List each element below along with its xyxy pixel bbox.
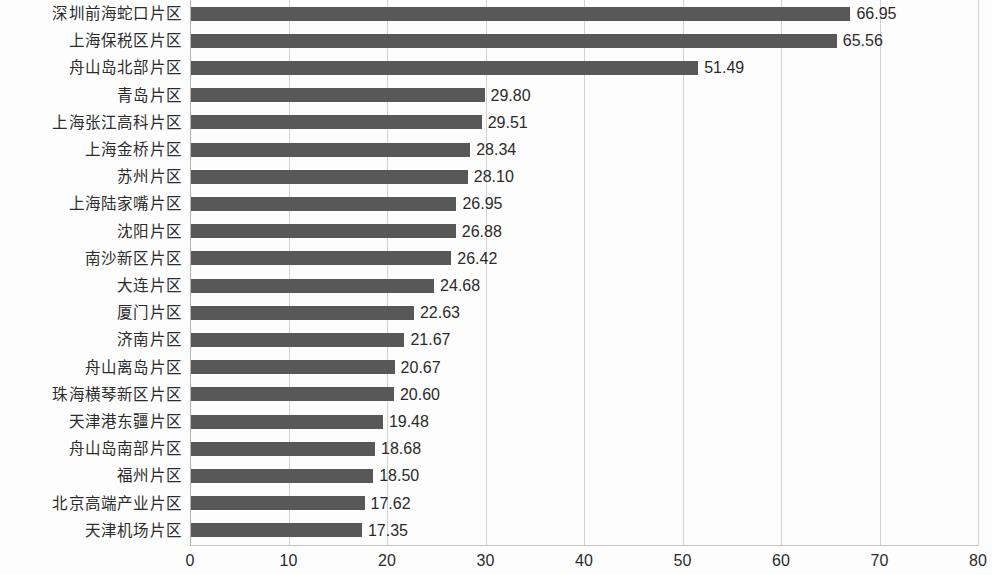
bar-value-label: 18.68 bbox=[381, 435, 421, 462]
bar[interactable] bbox=[191, 333, 404, 347]
bar-value-label: 28.10 bbox=[474, 163, 514, 190]
bar-row[interactable]: 天津港东疆片区19.48 bbox=[0, 408, 992, 435]
category-label: 舟山离岛片区 bbox=[0, 354, 182, 381]
category-label: 厦门片区 bbox=[0, 299, 182, 326]
bar-row[interactable]: 厦门片区22.63 bbox=[0, 299, 992, 326]
bar-value-label: 21.67 bbox=[410, 326, 450, 353]
x-axis-tick-label: 0 bbox=[186, 548, 195, 574]
bar[interactable] bbox=[191, 34, 837, 48]
category-label: 上海陆家嘴片区 bbox=[0, 190, 182, 217]
category-label: 青岛片区 bbox=[0, 82, 182, 109]
category-label: 上海张江高科片区 bbox=[0, 109, 182, 136]
bar-value-label: 19.48 bbox=[389, 408, 429, 435]
bar[interactable] bbox=[191, 197, 456, 211]
category-label: 舟山岛北部片区 bbox=[0, 54, 182, 81]
bar-row[interactable]: 珠海横琴新区片区20.60 bbox=[0, 381, 992, 408]
bar-value-label: 26.95 bbox=[462, 190, 502, 217]
bar-row[interactable]: 苏州片区28.10 bbox=[0, 163, 992, 190]
bar[interactable] bbox=[191, 523, 362, 537]
category-label: 深圳前海蛇口片区 bbox=[0, 0, 182, 27]
bar-value-label: 65.56 bbox=[843, 27, 883, 54]
bar[interactable] bbox=[191, 387, 394, 401]
bar-value-label: 17.62 bbox=[371, 490, 411, 517]
x-axis-tick-label: 40 bbox=[575, 548, 593, 574]
x-axis-baseline bbox=[190, 545, 979, 546]
x-axis-tick-label: 50 bbox=[674, 548, 692, 574]
bar-row[interactable]: 北京高端产业片区17.62 bbox=[0, 490, 992, 517]
bar[interactable] bbox=[191, 306, 414, 320]
bar[interactable] bbox=[191, 360, 395, 374]
bar-value-label: 18.50 bbox=[379, 462, 419, 489]
bar-row[interactable]: 南沙新区片区26.42 bbox=[0, 245, 992, 272]
x-axis-tick-label: 10 bbox=[280, 548, 298, 574]
bar-row[interactable]: 天津机场片区17.35 bbox=[0, 517, 992, 544]
category-label: 济南片区 bbox=[0, 326, 182, 353]
x-axis-tick-label: 20 bbox=[378, 548, 396, 574]
category-label: 大连片区 bbox=[0, 272, 182, 299]
category-label: 沈阳片区 bbox=[0, 218, 182, 245]
bar-value-label: 26.42 bbox=[457, 245, 497, 272]
bar-value-label: 51.49 bbox=[704, 54, 744, 81]
category-label: 上海保税区片区 bbox=[0, 27, 182, 54]
bar-value-label: 29.51 bbox=[488, 109, 528, 136]
bar-row[interactable]: 上海金桥片区28.34 bbox=[0, 136, 992, 163]
bar-row[interactable]: 青岛片区29.80 bbox=[0, 82, 992, 109]
bar[interactable] bbox=[191, 143, 470, 157]
bar[interactable] bbox=[191, 61, 698, 75]
x-axis-tick-label: 30 bbox=[477, 548, 495, 574]
bar-row[interactable]: 大连片区24.68 bbox=[0, 272, 992, 299]
bar-row[interactable]: 上海陆家嘴片区26.95 bbox=[0, 190, 992, 217]
bar-value-label: 20.60 bbox=[400, 381, 440, 408]
category-label: 舟山岛南部片区 bbox=[0, 435, 182, 462]
bar[interactable] bbox=[191, 224, 456, 238]
bar-value-label: 20.67 bbox=[401, 354, 441, 381]
bar-row[interactable]: 上海张江高科片区29.51 bbox=[0, 109, 992, 136]
category-label: 上海金桥片区 bbox=[0, 136, 182, 163]
bar-row[interactable]: 福州片区18.50 bbox=[0, 462, 992, 489]
bar[interactable] bbox=[191, 115, 482, 129]
bar-row[interactable]: 舟山岛南部片区18.68 bbox=[0, 435, 992, 462]
bar-value-label: 24.68 bbox=[440, 272, 480, 299]
bar[interactable] bbox=[191, 88, 485, 102]
bar[interactable] bbox=[191, 170, 468, 184]
bar-value-label: 29.80 bbox=[491, 82, 531, 109]
category-label: 福州片区 bbox=[0, 462, 182, 489]
bar-value-label: 66.95 bbox=[856, 0, 896, 27]
x-axis-tick-label: 70 bbox=[871, 548, 889, 574]
category-label: 北京高端产业片区 bbox=[0, 490, 182, 517]
bar[interactable] bbox=[191, 469, 373, 483]
category-label: 南沙新区片区 bbox=[0, 245, 182, 272]
bar[interactable] bbox=[191, 279, 434, 293]
bar[interactable] bbox=[191, 415, 383, 429]
bar[interactable] bbox=[191, 496, 365, 510]
bar[interactable] bbox=[191, 7, 850, 21]
bar-value-label: 26.88 bbox=[462, 218, 502, 245]
bar-value-label: 28.34 bbox=[476, 136, 516, 163]
x-axis-tick-label: 80 bbox=[969, 548, 987, 574]
bar[interactable] bbox=[191, 442, 375, 456]
bar-value-label: 17.35 bbox=[368, 517, 408, 544]
category-label: 苏州片区 bbox=[0, 163, 182, 190]
bar-value-label: 22.63 bbox=[420, 299, 460, 326]
bar[interactable] bbox=[191, 251, 451, 265]
x-axis-tick-label: 60 bbox=[772, 548, 790, 574]
bar-row[interactable]: 舟山岛北部片区51.49 bbox=[0, 54, 992, 81]
category-label: 珠海横琴新区片区 bbox=[0, 381, 182, 408]
category-label: 天津港东疆片区 bbox=[0, 408, 182, 435]
bar-row[interactable]: 沈阳片区26.88 bbox=[0, 218, 992, 245]
bar-row[interactable]: 上海保税区片区65.56 bbox=[0, 27, 992, 54]
bar-row[interactable]: 舟山离岛片区20.67 bbox=[0, 354, 992, 381]
category-label: 天津机场片区 bbox=[0, 517, 182, 544]
bar-row[interactable]: 深圳前海蛇口片区66.95 bbox=[0, 0, 992, 27]
bar-chart: 深圳前海蛇口片区66.95上海保税区片区65.56舟山岛北部片区51.49青岛片… bbox=[0, 0, 992, 575]
bar-row[interactable]: 济南片区21.67 bbox=[0, 326, 992, 353]
